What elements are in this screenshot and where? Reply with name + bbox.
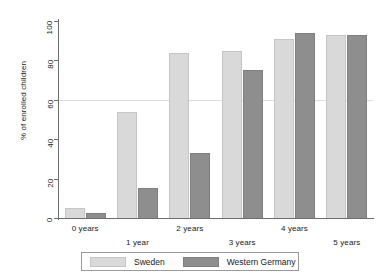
plot-area xyxy=(59,21,373,218)
x-axis-line xyxy=(58,218,374,219)
y-tick-label: 60 xyxy=(46,99,55,108)
legend-swatch-sweden xyxy=(90,257,126,267)
y-tick-label: 100 xyxy=(46,21,55,35)
bar-sweden-3 xyxy=(222,51,242,218)
chart-legend: Sweden Western Germany xyxy=(81,252,299,271)
bar-western-germany-0 xyxy=(86,213,106,218)
y-tick-label: 0 xyxy=(46,218,55,223)
legend-label-western-germany: Western Germany xyxy=(227,257,296,267)
x-tick-label-3: 3 years xyxy=(212,238,272,247)
legend-entry-western-germany: Western Germany xyxy=(183,253,296,270)
x-tick-label-2: 2 years xyxy=(160,224,220,233)
bar-western-germany-2 xyxy=(190,153,210,218)
y-tick-mark xyxy=(54,21,58,22)
bar-sweden-1 xyxy=(117,112,137,218)
bar-sweden-5 xyxy=(326,35,346,218)
y-tick-label: 80 xyxy=(46,60,55,69)
bar-chart: % of enrolled children 020406080100 0 ye… xyxy=(0,0,382,280)
y-tick-label: 40 xyxy=(46,139,55,148)
y-axis-title: % of enrolled children xyxy=(19,26,28,176)
legend-entry-sweden: Sweden xyxy=(90,253,165,270)
bar-sweden-4 xyxy=(274,39,294,218)
bar-western-germany-1 xyxy=(138,188,158,218)
x-tick-label-4: 4 years xyxy=(265,224,325,233)
y-tick-mark xyxy=(54,218,58,219)
x-tick-label-0: 0 years xyxy=(55,224,115,233)
x-tick-label-1: 1 year xyxy=(108,238,168,247)
y-tick-label: 20 xyxy=(46,178,55,187)
bar-sweden-2 xyxy=(169,53,189,218)
bar-sweden-0 xyxy=(65,208,85,218)
legend-swatch-western-germany xyxy=(183,257,219,267)
bar-western-germany-4 xyxy=(295,33,315,218)
x-tick-label-5: 5 years xyxy=(317,238,377,247)
legend-label-sweden: Sweden xyxy=(134,257,165,267)
bar-western-germany-3 xyxy=(243,70,263,218)
bar-western-germany-5 xyxy=(347,35,367,218)
